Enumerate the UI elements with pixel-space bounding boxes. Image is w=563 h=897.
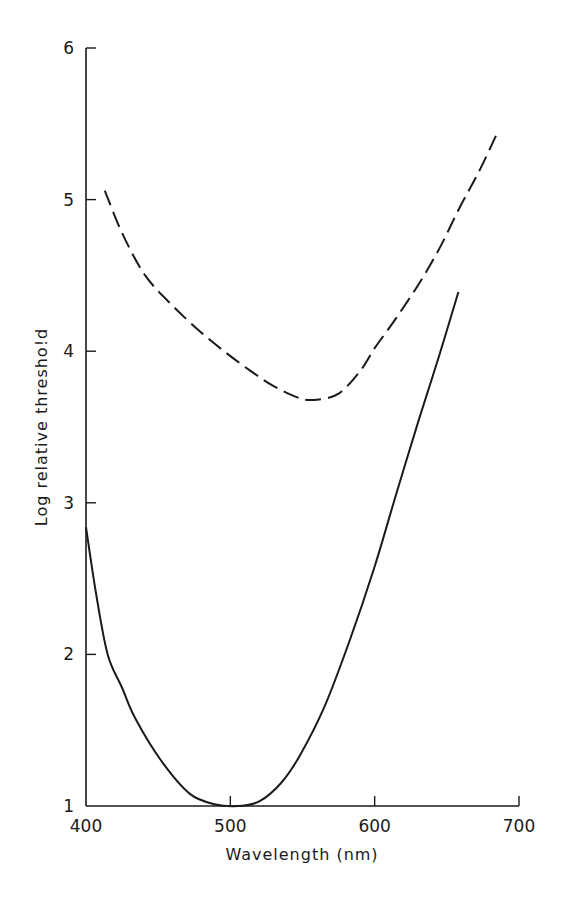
threshold-chart: 123456400500600700 Wavelength (nm) Log r… [0, 0, 563, 897]
solid-curve [86, 292, 458, 806]
y-tick-label: 5 [63, 190, 74, 210]
y-axis-title: Log relative thresho!d [32, 328, 51, 526]
x-tick-label: 400 [70, 816, 102, 836]
y-tick-label: 3 [63, 493, 74, 513]
x-tick-label: 500 [214, 816, 246, 836]
x-tick-label: 700 [503, 816, 535, 836]
y-tick-label: 6 [63, 38, 74, 58]
data-series [86, 136, 496, 806]
y-tick-label: 2 [63, 644, 74, 664]
x-axis-title: Wavelength (nm) [225, 845, 378, 864]
y-tick-label: 1 [63, 796, 74, 816]
x-tick-label: 600 [358, 816, 390, 836]
y-tick-label: 4 [63, 341, 74, 361]
